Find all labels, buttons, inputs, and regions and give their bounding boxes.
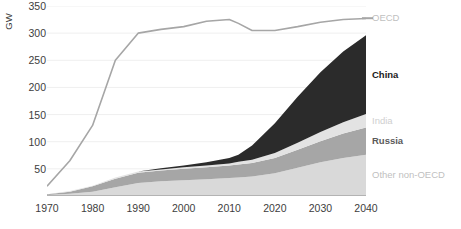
x-axis-tick-labels: 19701980199020002010202020302040 bbox=[47, 198, 366, 224]
x-tick-2000: 2000 bbox=[172, 202, 195, 214]
legend-item-russia[interactable]: Russia bbox=[372, 135, 403, 146]
legend-item-china[interactable]: China bbox=[372, 69, 398, 80]
y-tick-150: 150 bbox=[12, 109, 46, 121]
x-tick-1970: 1970 bbox=[35, 202, 58, 214]
y-tick-100: 100 bbox=[12, 136, 46, 148]
legend-line-marker bbox=[362, 17, 373, 19]
chart-root: GW 50100150200250300350 1970198019902000… bbox=[0, 0, 461, 229]
y-tick-200: 200 bbox=[12, 81, 46, 93]
y-tick-50: 50 bbox=[12, 163, 46, 175]
x-tick-2010: 2010 bbox=[218, 202, 241, 214]
legend-label: Other non-OECD bbox=[372, 169, 445, 180]
y-tick-350: 350 bbox=[12, 0, 46, 12]
y-axis-tick-labels: 50100150200250300350 bbox=[0, 0, 46, 229]
legend-label: India bbox=[372, 115, 393, 126]
y-tick-300: 300 bbox=[12, 27, 46, 39]
legend-item-other-non-oecd[interactable]: Other non-OECD bbox=[372, 169, 445, 180]
legend-label: China bbox=[372, 69, 398, 80]
chart-legend: OECDChinaIndiaRussiaOther non-OECD bbox=[366, 0, 461, 229]
y-tick-250: 250 bbox=[12, 54, 46, 66]
x-tick-2030: 2030 bbox=[309, 202, 332, 214]
x-tick-2020: 2020 bbox=[263, 202, 286, 214]
chart-svg bbox=[47, 6, 366, 196]
x-tick-1980: 1980 bbox=[81, 202, 104, 214]
legend-item-india[interactable]: India bbox=[372, 115, 393, 126]
legend-label: Russia bbox=[372, 135, 403, 146]
chart-title-cropped bbox=[92, 0, 282, 2]
legend-item-oecd[interactable]: OECD bbox=[372, 12, 399, 23]
x-tick-1990: 1990 bbox=[126, 202, 149, 214]
legend-label: OECD bbox=[372, 12, 399, 23]
plot-area bbox=[47, 6, 366, 196]
